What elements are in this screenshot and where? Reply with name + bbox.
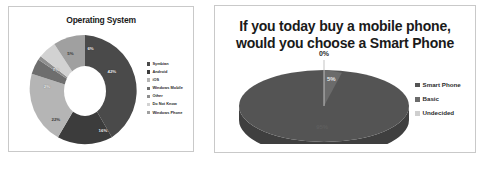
legend-item-smart-phone[interactable]: Smart Phone <box>415 82 477 88</box>
legend-item-android[interactable]: Android <box>147 70 195 74</box>
pie3d-chart-smart-phone: 0% 5% 95% <box>233 58 415 144</box>
chart-title-line-2: would you choose a Smart Phone <box>229 35 461 52</box>
segment-label-windows-mobile: 7% <box>53 66 59 71</box>
pie3d-svg <box>233 58 415 144</box>
pie-label-basic: 5% <box>327 76 336 82</box>
legend-item-other[interactable]: Other <box>147 94 195 98</box>
legend-item-ios[interactable]: iOS <box>147 78 195 82</box>
legend-smart-phone: Smart Phone Basic Undecided <box>415 82 477 125</box>
chart-title-smart-phone: If you today buy a mobile phone, would y… <box>215 18 475 52</box>
legend-label-symbian: Symbian <box>152 62 168 66</box>
legend-label-ios: iOS <box>152 78 159 82</box>
segment-label-other: 2% <box>44 84 50 89</box>
legend-label-smart-phone: Smart Phone <box>423 82 461 88</box>
legend-label-undecided: Undecided <box>423 110 455 116</box>
legend-swatch-basic <box>415 97 420 102</box>
pie-label-undecided: 0% <box>319 49 329 56</box>
legend-swatch-ios <box>147 78 150 81</box>
chart-title-operating-system: Operating System <box>9 15 193 25</box>
segment-label-do-not-know: 5% <box>67 50 73 55</box>
legend-operating-system: Symbian Android iOS Windows Mobile Other… <box>147 62 195 119</box>
legend-item-do-not-know[interactable]: Do Not Know <box>147 102 195 106</box>
legend-swatch-android <box>147 70 150 73</box>
legend-label-basic: Basic <box>423 96 440 102</box>
segment-label-symbian: 42% <box>107 69 116 74</box>
legend-item-windows-phone[interactable]: Windows Phone <box>147 111 195 115</box>
legend-label-windows-phone: Windows Phone <box>152 111 182 115</box>
legend-swatch-undecided <box>415 111 420 116</box>
segment-label-ios: 22% <box>51 116 60 121</box>
legend-item-basic[interactable]: Basic <box>415 96 477 102</box>
legend-swatch-other <box>147 95 150 98</box>
screenshot-stage: Operating System <box>0 0 483 174</box>
legend-swatch-symbian <box>147 62 150 65</box>
legend-label-other: Other <box>152 94 162 98</box>
segment-label-android: 16% <box>99 128 108 133</box>
legend-item-symbian[interactable]: Symbian <box>147 62 195 66</box>
legend-item-undecided[interactable]: Undecided <box>415 110 477 116</box>
pie-label-smart-phone: 95% <box>316 124 328 130</box>
doughnut-segments <box>30 35 137 144</box>
legend-label-do-not-know: Do Not Know <box>152 102 176 106</box>
legend-swatch-windows-mobile <box>147 87 150 90</box>
doughnut-svg <box>29 33 141 149</box>
legend-swatch-windows-phone <box>147 111 150 114</box>
legend-swatch-do-not-know <box>147 103 150 106</box>
doughnut-chart-operating-system: 42% 16% 22% 7% 2% 5% 6% <box>29 33 141 149</box>
chart-panel-operating-system: Operating System <box>8 6 194 152</box>
chart-panel-smart-phone: If you today buy a mobile phone, would y… <box>214 5 476 153</box>
legend-swatch-smart-phone <box>415 83 420 88</box>
legend-item-windows-mobile[interactable]: Windows Mobile <box>147 86 195 90</box>
segment-label-windows-phone: 6% <box>87 46 93 51</box>
chart-title-line-1: If you today buy a mobile phone, <box>229 18 461 35</box>
legend-label-windows-mobile: Windows Mobile <box>152 86 182 90</box>
legend-label-android: Android <box>152 70 167 74</box>
